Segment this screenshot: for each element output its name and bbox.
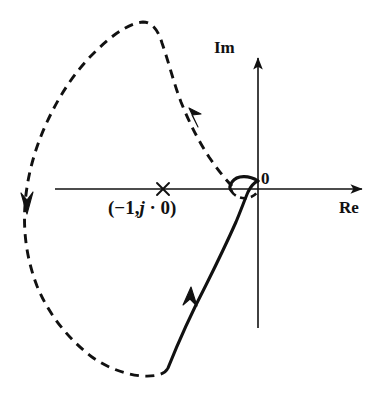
critical-point-label-j: j bbox=[139, 197, 144, 218]
imaginary-axis-label: Im bbox=[214, 39, 235, 56]
nyquist-figure: Im Re 0 (−1,j · 0) bbox=[0, 0, 384, 402]
nyquist-locus-solid bbox=[168, 181, 258, 368]
nyquist-plot-canvas bbox=[0, 0, 384, 402]
real-axis-label: Re bbox=[339, 199, 359, 216]
arrow-solid-ascending bbox=[183, 287, 197, 306]
nyquist-origin-loop-dashed bbox=[232, 190, 259, 198]
critical-point-label-dotzero: · 0) bbox=[149, 197, 176, 218]
arrow-upper-right-ascending bbox=[189, 108, 201, 127]
critical-point-label-open: (−1, bbox=[108, 197, 139, 218]
critical-point-label: (−1,j · 0) bbox=[108, 198, 176, 217]
origin-label: 0 bbox=[261, 170, 270, 187]
